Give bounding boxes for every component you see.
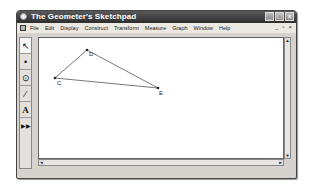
- point-e: [157, 87, 160, 90]
- compass-icon: ⊙: [22, 73, 30, 83]
- arrow-tool[interactable]: ↖: [20, 38, 31, 54]
- text-icon: A: [22, 105, 29, 115]
- sketch-canvas[interactable]: C D E: [38, 37, 284, 159]
- close-button[interactable]: ×: [285, 12, 294, 21]
- menu-help[interactable]: Help: [219, 25, 230, 31]
- document-icon[interactable]: [20, 25, 26, 31]
- label-e[interactable]: E: [159, 90, 163, 96]
- arrow-icon: ↖: [22, 41, 30, 51]
- title-bar[interactable]: The Geometer's Sketchpad _ □ ×: [17, 11, 296, 23]
- compass-tool[interactable]: ⊙: [20, 70, 31, 86]
- triangle-sketch: [39, 38, 283, 158]
- point-icon: •: [24, 57, 27, 67]
- custom-tool[interactable]: ▶▶: [20, 118, 31, 133]
- point-tool[interactable]: •: [20, 54, 31, 70]
- point-c: [54, 77, 57, 80]
- menu-file[interactable]: File: [30, 25, 39, 31]
- scroll-down-arrow[interactable]: ▼: [285, 153, 290, 158]
- toolbox: ↖ • ⊙ ⁄ A ▶▶: [19, 37, 32, 169]
- scroll-left-arrow[interactable]: ◄: [39, 160, 44, 165]
- menu-display[interactable]: Display: [60, 25, 78, 31]
- menu-measure[interactable]: Measure: [145, 25, 166, 31]
- menu-graph[interactable]: Graph: [172, 25, 187, 31]
- menu-edit[interactable]: Edit: [45, 25, 54, 31]
- maximize-button[interactable]: □: [275, 12, 284, 21]
- menu-construct[interactable]: Construct: [84, 25, 108, 31]
- menu-bar: File Edit Display Construct Transform Me…: [17, 23, 296, 33]
- point-d: [86, 49, 89, 52]
- horizontal-scrollbar[interactable]: ◄ ►: [38, 159, 284, 166]
- window-title: The Geometer's Sketchpad: [31, 12, 136, 21]
- straightedge-tool[interactable]: ⁄: [20, 86, 31, 102]
- minimize-button[interactable]: _: [265, 12, 274, 21]
- label-d[interactable]: D: [89, 51, 93, 57]
- custom-tool-icon: ▶▶: [21, 122, 31, 129]
- segment-cd: [55, 50, 87, 78]
- text-tool[interactable]: A: [20, 102, 31, 118]
- app-icon[interactable]: [20, 13, 27, 20]
- doc-close-button[interactable]: ×: [288, 24, 292, 30]
- menu-window[interactable]: Window: [194, 25, 214, 31]
- doc-minimize-button[interactable]: _: [275, 24, 278, 30]
- doc-restore-button[interactable]: ▫: [282, 24, 284, 30]
- menu-transform[interactable]: Transform: [114, 25, 139, 31]
- scroll-up-arrow[interactable]: ▲: [285, 38, 290, 43]
- vertical-scrollbar[interactable]: ▲ ▼: [284, 37, 291, 159]
- sketchpad-window: The Geometer's Sketchpad _ □ × File Edit…: [16, 10, 297, 179]
- label-c[interactable]: C: [57, 80, 61, 86]
- straightedge-icon: ⁄: [25, 89, 27, 99]
- scroll-right-arrow[interactable]: ►: [278, 160, 283, 165]
